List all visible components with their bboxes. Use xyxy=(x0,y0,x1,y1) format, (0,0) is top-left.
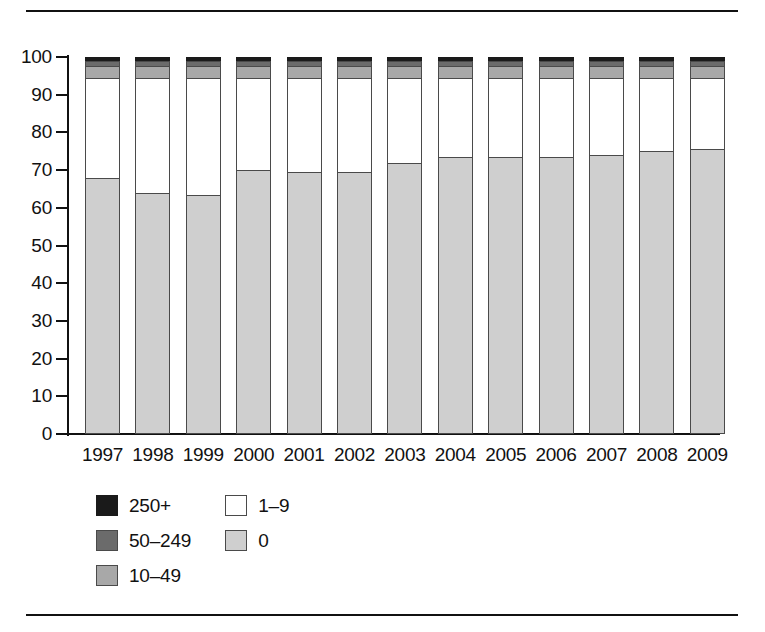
bar-segment-2006-10-49 xyxy=(539,66,574,78)
legend-item-10-49[interactable]: 10–49 xyxy=(96,564,191,586)
bar-2007 xyxy=(589,57,624,434)
y-axis-tick-label: 50 xyxy=(0,236,52,255)
x-axis-tick-label-2004: 2004 xyxy=(426,444,484,466)
legend-item-label: 50–249 xyxy=(129,531,191,550)
legend-column-left: 250+50–24910–49 xyxy=(96,494,191,586)
y-axis-tick xyxy=(56,395,68,397)
legend-column-right: 1–90 xyxy=(225,494,289,586)
legend-item-50-249[interactable]: 50–249 xyxy=(96,529,191,551)
x-axis-tick-label-2001: 2001 xyxy=(275,444,333,466)
legend-item-0[interactable]: 0 xyxy=(225,529,289,551)
bar-segment-2009-0 xyxy=(690,149,725,434)
x-axis-tick-label-2009: 2009 xyxy=(678,444,736,466)
legend-swatch-icon xyxy=(225,495,247,516)
bar-2005 xyxy=(488,57,523,434)
bar-segment-1999-1-9 xyxy=(186,78,221,195)
legend-swatch-icon xyxy=(96,495,118,516)
legend-item-label: 0 xyxy=(258,531,268,550)
y-axis-tick xyxy=(56,433,68,435)
y-axis-tick-label: 10 xyxy=(0,386,52,405)
bar-segment-2007-1-9 xyxy=(589,78,624,155)
y-axis-tick-label: 40 xyxy=(0,273,52,292)
x-axis-tick-label-2005: 2005 xyxy=(477,444,535,466)
bar-2009 xyxy=(690,57,725,434)
x-axis-tick-label-2006: 2006 xyxy=(527,444,585,466)
bar-segment-1998-10-49 xyxy=(135,66,170,78)
bar-1997 xyxy=(85,57,120,434)
bar-segment-1999-0 xyxy=(186,195,221,434)
bar-segment-2003-10-49 xyxy=(387,66,422,78)
y-axis-tick xyxy=(56,282,68,284)
x-axis-tick-label-2003: 2003 xyxy=(376,444,434,466)
bar-segment-2004-1-9 xyxy=(438,78,473,157)
y-axis-tick-label: 80 xyxy=(0,122,52,141)
bar-segment-1998-1-9 xyxy=(135,78,170,193)
legend-item-label: 1–9 xyxy=(258,496,289,515)
bar-segment-1999-10-49 xyxy=(186,66,221,78)
legend-swatch-icon xyxy=(225,530,247,551)
bar-segment-2002-10-49 xyxy=(337,66,372,78)
bar-segment-2003-1-9 xyxy=(387,78,422,163)
bar-1999 xyxy=(186,57,221,434)
y-axis-tick xyxy=(56,245,68,247)
bar-segment-2001-10-49 xyxy=(287,66,322,78)
legend-item-250+[interactable]: 250+ xyxy=(96,494,191,516)
legend-item-label: 10–49 xyxy=(129,566,181,585)
bar-segment-2002-0 xyxy=(337,172,372,434)
bar-segment-1998-0 xyxy=(135,193,170,434)
bar-segment-2004-10-49 xyxy=(438,66,473,78)
bar-2006 xyxy=(539,57,574,434)
legend-item-1-9[interactable]: 1–9 xyxy=(225,494,289,516)
bar-2001 xyxy=(287,57,322,434)
y-axis-tick xyxy=(56,169,68,171)
x-axis-tick-label-2000: 2000 xyxy=(225,444,283,466)
y-axis-tick-label: 60 xyxy=(0,198,52,217)
y-axis-tick xyxy=(56,320,68,322)
bar-segment-2003-0 xyxy=(387,163,422,434)
bar-segment-2000-1-9 xyxy=(236,78,271,170)
y-axis-tick-label: 100 xyxy=(0,47,52,66)
legend-swatch-icon xyxy=(96,530,118,551)
x-axis-tick-label-1999: 1999 xyxy=(174,444,232,466)
y-axis-tick xyxy=(56,94,68,96)
bar-segment-2008-0 xyxy=(639,151,674,434)
bar-segment-2006-1-9 xyxy=(539,78,574,157)
bar-2008 xyxy=(639,57,674,434)
bar-segment-1997-1-9 xyxy=(85,78,120,178)
bar-segment-2001-1-9 xyxy=(287,78,322,172)
y-axis-tick-label: 0 xyxy=(0,424,52,443)
bar-segment-1997-0 xyxy=(85,178,120,434)
x-axis-tick-label-2008: 2008 xyxy=(628,444,686,466)
y-axis-tick-label: 70 xyxy=(0,160,52,179)
legend-item-label: 250+ xyxy=(129,496,171,515)
bar-2003 xyxy=(387,57,422,434)
y-axis-tick-label: 20 xyxy=(0,349,52,368)
bar-segment-2008-10-49 xyxy=(639,66,674,78)
bar-segment-2001-0 xyxy=(287,172,322,434)
bar-segment-2004-0 xyxy=(438,157,473,434)
y-axis-tick-label: 30 xyxy=(0,311,52,330)
y-axis-tick xyxy=(56,56,68,58)
bar-2002 xyxy=(337,57,372,434)
bar-segment-2000-10-49 xyxy=(236,66,271,78)
bar-segment-2006-0 xyxy=(539,157,574,434)
bar-segment-2009-10-49 xyxy=(690,66,725,78)
bar-2004 xyxy=(438,57,473,434)
bar-segment-2008-1-9 xyxy=(639,78,674,152)
bar-segment-2007-0 xyxy=(589,155,624,434)
bar-segment-2000-0 xyxy=(236,170,271,434)
bar-segment-2005-10-49 xyxy=(488,66,523,78)
y-axis-tick-label: 90 xyxy=(0,85,52,104)
x-axis-tick-label-1997: 1997 xyxy=(74,444,132,466)
x-axis-tick-label-1998: 1998 xyxy=(124,444,182,466)
x-axis-tick-label-2002: 2002 xyxy=(326,444,384,466)
bar-segment-2009-1-9 xyxy=(690,78,725,150)
x-axis-tick-label-2007: 2007 xyxy=(578,444,636,466)
stacked-bar-chart-figure: 250+50–24910–49 1–90 0102030405060708090… xyxy=(0,0,765,632)
bar-segment-2005-0 xyxy=(488,157,523,434)
y-axis-tick xyxy=(56,131,68,133)
bar-segment-2002-1-9 xyxy=(337,78,372,172)
bar-segment-2005-1-9 xyxy=(488,78,523,157)
y-axis-tick xyxy=(56,358,68,360)
bar-segment-1997-10-49 xyxy=(85,66,120,78)
